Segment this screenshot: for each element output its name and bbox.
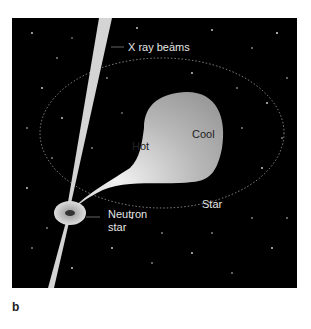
diagram-graphics [12, 18, 297, 288]
neutron-star-core [65, 210, 75, 216]
label-hot: Hot [132, 140, 149, 152]
xray-beam-upper [67, 18, 112, 208]
binary-system-diagram: X ray beams Hot Cool Star Neutron star [12, 18, 297, 288]
label-xray-beams: X ray beams [128, 41, 190, 53]
label-cool: Cool [192, 128, 215, 140]
panel-label: b [12, 300, 19, 314]
label-star: Star [202, 198, 222, 210]
label-neutron-line2: star [108, 221, 126, 233]
label-neutron-line1: Neutron [108, 208, 147, 220]
xray-beam-lower [48, 218, 70, 288]
